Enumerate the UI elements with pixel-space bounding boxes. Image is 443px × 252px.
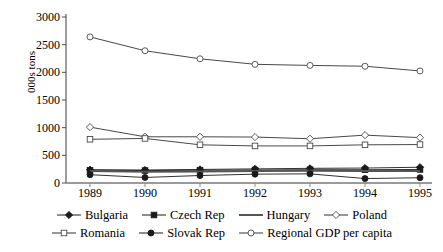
data-point-marker <box>416 134 423 141</box>
data-point-marker <box>417 175 423 181</box>
data-point-marker <box>306 135 313 142</box>
legend-label: Poland <box>352 208 387 222</box>
legend-item-regional-gdp-per-capita[interactable]: Regional GDP per capita <box>238 226 392 240</box>
data-point-marker <box>197 56 203 62</box>
legend-label: Czech Rep <box>170 208 225 222</box>
data-point-marker <box>361 132 368 139</box>
data-point-marker <box>142 174 148 180</box>
data-point-marker <box>148 230 154 236</box>
data-point-marker <box>151 212 157 218</box>
chart-legend: BulgariaCzech RepHungaryPoland RomaniaSl… <box>0 206 443 242</box>
data-point-marker <box>362 142 368 148</box>
legend-marker-filled-diamond-icon <box>56 209 82 221</box>
legend-marker-filled-circle-icon <box>138 227 164 239</box>
data-point-marker <box>65 211 72 218</box>
legend-item-hungary[interactable]: Hungary <box>238 208 311 222</box>
series-regional-gdp-per-capita <box>87 34 423 74</box>
legend-item-slovak-rep[interactable]: Slovak Rep <box>138 226 225 240</box>
data-point-marker <box>248 230 254 236</box>
data-point-marker <box>86 124 93 131</box>
legend-row: RomaniaSlovak RepRegional GDP per capita <box>0 224 443 242</box>
legend-item-bulgaria[interactable]: Bulgaria <box>56 208 128 222</box>
legend-item-romania[interactable]: Romania <box>51 226 125 240</box>
data-point-marker <box>333 211 340 218</box>
data-point-marker <box>417 142 423 148</box>
legend-marker-none-icon <box>238 209 264 221</box>
data-point-marker <box>251 133 258 140</box>
series-poland <box>86 124 423 143</box>
data-point-marker <box>252 171 258 177</box>
legend-label: Romania <box>80 226 125 240</box>
legend-row: BulgariaCzech RepHungaryPoland <box>0 206 443 224</box>
legend-label: Slovak Rep <box>167 226 225 240</box>
data-point-marker <box>307 143 313 149</box>
legend-marker-filled-square-icon <box>141 209 167 221</box>
data-point-marker <box>197 173 203 179</box>
legend-marker-open-square-icon <box>51 227 77 239</box>
data-point-marker <box>362 63 368 69</box>
data-point-marker <box>87 137 93 143</box>
data-point-marker <box>87 34 93 40</box>
data-point-marker <box>252 143 258 149</box>
legend-item-czech-rep[interactable]: Czech Rep <box>141 208 225 222</box>
legend-item-poland[interactable]: Poland <box>323 208 387 222</box>
line-chart: 000s tons 050010001500200025003000 19891… <box>0 0 443 252</box>
data-point-marker <box>307 62 313 68</box>
data-point-marker <box>417 68 423 74</box>
data-point-marker <box>142 136 148 142</box>
data-point-marker <box>87 172 93 178</box>
legend-marker-open-circle-icon <box>238 227 264 239</box>
legend-marker-open-diamond-icon <box>323 209 349 221</box>
data-point-marker <box>196 133 203 140</box>
legend-label: Bulgaria <box>85 208 128 222</box>
data-point-marker <box>197 142 203 148</box>
data-point-marker <box>362 176 368 182</box>
data-point-marker <box>252 61 258 67</box>
legend-label: Hungary <box>267 208 311 222</box>
data-point-marker <box>142 48 148 54</box>
legend-label: Regional GDP per capita <box>267 226 392 240</box>
data-point-marker <box>61 230 67 236</box>
data-point-marker <box>307 171 313 177</box>
